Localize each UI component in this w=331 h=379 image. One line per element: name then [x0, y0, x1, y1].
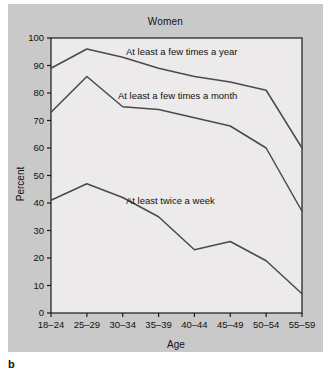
plot-area-background — [51, 38, 302, 313]
x-tick-label: 50–54 — [253, 319, 279, 330]
y-tick-label: 100 — [28, 32, 44, 43]
y-tick-label: 20 — [33, 252, 44, 263]
series-annotation-1: At least a few times a month — [118, 90, 237, 101]
x-tick-label: 35–39 — [145, 319, 171, 330]
line-chart: 0102030405060708090100 18–2425–2930–3435… — [8, 4, 323, 352]
x-tick-label: 40–44 — [181, 319, 207, 330]
panel-label: b — [8, 358, 15, 370]
y-tick-label: 60 — [33, 142, 44, 153]
x-axis-tick-labels: 18–2425–2930–3435–3940–4445–4950–5455–59 — [38, 319, 315, 330]
y-tick-label: 70 — [33, 115, 44, 126]
series-annotation-2: At least twice a week — [126, 195, 215, 206]
x-tick-label: 30–34 — [110, 319, 136, 330]
y-axis-tick-labels: 0102030405060708090100 — [28, 32, 44, 318]
x-tick-label: 45–49 — [217, 319, 243, 330]
chart-panel: Women 0102030405060708090100 18–2425–293… — [8, 4, 323, 352]
x-tick-label: 55–59 — [289, 319, 315, 330]
y-tick-label: 30 — [33, 225, 44, 236]
y-tick-label: 0 — [39, 307, 44, 318]
y-tick-label: 10 — [33, 280, 44, 291]
y-axis-title: Percent — [15, 167, 26, 202]
x-tick-label: 18–24 — [38, 319, 64, 330]
y-tick-label: 90 — [33, 60, 44, 71]
y-tick-label: 50 — [33, 170, 44, 181]
x-tick-label: 25–29 — [74, 319, 100, 330]
series-annotation-0: At least a few times a year — [126, 46, 237, 57]
x-axis-title: Age — [167, 339, 185, 350]
figure-panel-b: Women 0102030405060708090100 18–2425–293… — [0, 0, 331, 379]
y-tick-label: 80 — [33, 87, 44, 98]
y-tick-label: 40 — [33, 197, 44, 208]
